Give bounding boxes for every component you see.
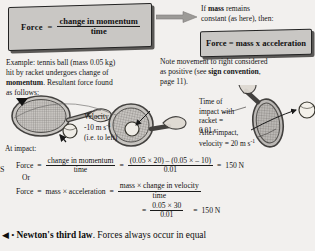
- hand-middle: [163, 117, 186, 130]
- velocity-annotation: Velocity -10 m s-1 (i.e. to left): [84, 112, 154, 142]
- time-of-impact-line2: impact with: [199, 107, 253, 117]
- note-line3: page 11).: [160, 77, 312, 87]
- caption-rest: . Forces always occur in equal: [93, 230, 207, 240]
- example-line2: hit by racket undergoes change of: [6, 68, 156, 78]
- derivation-row-2: Force = mass × acceleration = mass × cha…: [16, 182, 314, 199]
- after-impact-line1: After impact,: [199, 128, 269, 138]
- note-line2-suffix: ,: [259, 67, 261, 76]
- velocity-value: -10 m s: [84, 123, 106, 132]
- derivation-row-3: = 0.05 × 30 0.01 = 150 N: [138, 202, 314, 219]
- formula1-denominator: time: [90, 28, 106, 37]
- velocity-arrow-left: [60, 135, 66, 142]
- example-line4: as follows:: [6, 88, 156, 98]
- example-text-block: Example: tennis ball (mass 0.05 kg) hit …: [6, 58, 156, 98]
- derivation-row3-eq2: =: [183, 206, 197, 215]
- derivation-row1-eq2: =: [115, 161, 127, 170]
- note-text-block: Note movement to right considered as pos…: [160, 57, 312, 87]
- derivation-block: Force = change in momentum time = (0.05 …: [4, 157, 314, 219]
- derivation-row1-eq3: =: [213, 161, 225, 170]
- velocity-direction: (i.e. to left): [84, 133, 154, 143]
- derivation-or-label: Or: [22, 173, 30, 182]
- time-of-impact-line1: Time of: [199, 97, 253, 107]
- note-line2-bold: sign convention: [208, 67, 258, 76]
- right-arrow-icon: [156, 11, 198, 23]
- ball-before-impact: [63, 124, 77, 138]
- time-of-impact-line3: racket =: [199, 116, 253, 126]
- derivation-row1-fraction-left: change in momentum time: [46, 157, 116, 174]
- derivation-row3-fraction: 0.05 × 30 0.01: [150, 202, 183, 219]
- example-line3-bold: momentum: [6, 78, 43, 87]
- velocity-exponent: -1: [106, 122, 111, 128]
- derivation-row2-lhs: Force: [16, 187, 33, 196]
- example-line3-rest: . Resultant force found: [43, 78, 113, 87]
- derivation-row3-eq1: =: [138, 206, 150, 215]
- velocity-arrow-right: [251, 110, 296, 130]
- derivation-row2-eq1: =: [33, 187, 45, 196]
- caption-marker-icon: ◀ •: [2, 230, 17, 240]
- down-triangle-marker-icon: [16, 98, 28, 106]
- note-line2-prefix: as positive (see: [160, 67, 208, 76]
- derivation-row-1: Force = change in momentum time = (0.05 …: [16, 157, 314, 174]
- derivation-row1-den: time: [74, 166, 88, 174]
- after-impact-line2: velocity = 20 m s: [199, 139, 250, 148]
- condition-note-prefix: If: [201, 4, 208, 13]
- ball-after-impact: [299, 102, 315, 118]
- derivation-row3-result: 150 N: [198, 206, 221, 215]
- condition-note-line2: constant (as here), then:: [201, 14, 313, 24]
- condition-note-suffix: remains: [224, 4, 250, 13]
- derivation-row1-result: 150 N: [225, 161, 244, 170]
- formula1-fraction: change in momentum time: [57, 17, 139, 36]
- at-impact-label: At impact:: [5, 144, 36, 154]
- condition-note: If mass remains constant (as here), then…: [201, 4, 313, 24]
- derivation-row2-mid: mass × acceleration: [46, 187, 106, 196]
- derivation-row3-rhs-den: 0.01: [160, 211, 173, 219]
- formula2-text: Force = mass x acceleration: [206, 38, 306, 48]
- condition-note-bold: mass: [208, 4, 224, 13]
- derivation-row2-fraction: mass × change in velocity time: [118, 182, 201, 199]
- derivation-row2-rhs-den: time: [153, 192, 167, 200]
- derivation-row2-eq2: =: [106, 187, 118, 196]
- derivation-row1-fraction-right: (0.05 × 20) – (0.05 × – 10) 0.01: [128, 157, 213, 174]
- note-line1: Note movement to right considered: [160, 57, 312, 67]
- formula1-equals: =: [47, 22, 52, 32]
- textbook-page-figure: Force = change in momentum time If mass …: [0, 0, 315, 251]
- formula-box-force-acceleration: Force = mass x acceleration: [200, 29, 312, 58]
- derivation-row1-eq1: =: [33, 161, 45, 170]
- formula-box-force-momentum: Force = change in momentum time: [8, 3, 152, 51]
- caption-bold-term: Newton's third law: [17, 230, 93, 240]
- velocity-label: Velocity: [84, 112, 154, 122]
- derivation-row1-rhs-den: 0.01: [164, 166, 177, 174]
- derivation-row1-lhs: Force: [16, 161, 33, 170]
- after-impact-annotation: After impact, velocity = 20 m s-1: [199, 128, 269, 149]
- formula1-lhs: Force: [21, 22, 43, 32]
- after-impact-exponent: -1: [250, 138, 255, 144]
- example-line1: Example: tennis ball (mass 0.05 kg): [6, 58, 156, 68]
- bottom-caption: ◀ • Newton's third law. Forces always oc…: [2, 230, 313, 241]
